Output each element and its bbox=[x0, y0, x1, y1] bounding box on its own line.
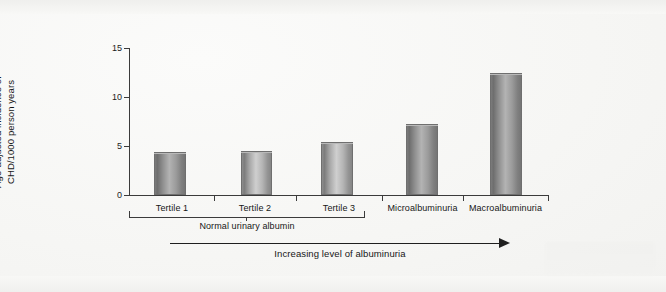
group-bracket-tick-right bbox=[364, 211, 365, 218]
bar-top-cap bbox=[321, 142, 353, 144]
bar-tertile-3[interactable] bbox=[321, 142, 353, 195]
x-tick-separator-1 bbox=[214, 196, 215, 201]
x-tick-separator-4 bbox=[463, 196, 464, 201]
category-label-tertile-3: Tertile 3 bbox=[296, 203, 382, 213]
category-label-microalbuminuria: Microalbuminuria bbox=[382, 203, 463, 213]
category-label-tertile-1: Tertile 1 bbox=[130, 203, 214, 213]
bar-top-cap bbox=[154, 152, 186, 154]
y-tick-0 bbox=[124, 195, 129, 196]
y-axis-line bbox=[129, 48, 130, 196]
bar-tertile-1[interactable] bbox=[154, 152, 186, 195]
category-label-tertile-2: Tertile 2 bbox=[214, 203, 296, 213]
y-tick-label-5: 5 bbox=[100, 141, 122, 151]
y-tick-label-15: 15 bbox=[100, 43, 122, 53]
group-bracket-label: Normal urinary albumin bbox=[129, 221, 365, 231]
x-axis-line bbox=[129, 195, 549, 196]
bar-chart: Age-adjusted incidence of CHD/1000 perso… bbox=[0, 0, 666, 292]
direction-arrow-label: Increasing level of albuminuria bbox=[170, 248, 510, 259]
x-tick-separator-5 bbox=[548, 196, 549, 201]
arrow-right-icon bbox=[499, 238, 510, 248]
direction-arrow-line bbox=[170, 243, 502, 244]
x-tick-separator-2 bbox=[296, 196, 297, 201]
category-label-macroalbuminuria: Macroalbuminuria bbox=[463, 203, 548, 213]
bar-top-cap bbox=[241, 151, 272, 153]
y-tick-label-0: 0 bbox=[100, 190, 122, 200]
bar-top-cap bbox=[490, 73, 522, 75]
group-bracket-tick-left bbox=[129, 211, 130, 218]
bar-tertile-2[interactable] bbox=[241, 151, 272, 195]
x-tick-separator-3 bbox=[382, 196, 383, 201]
y-tick-label-10: 10 bbox=[100, 92, 122, 102]
y-tick-10 bbox=[124, 97, 129, 98]
y-axis-title-line2: CHD/1000 person years bbox=[5, 52, 18, 212]
bar-macroalbuminuria[interactable] bbox=[490, 73, 522, 196]
group-bracket-line bbox=[129, 217, 365, 218]
bar-microalbuminuria[interactable] bbox=[406, 124, 438, 196]
y-tick-5 bbox=[124, 146, 129, 147]
bar-top-cap bbox=[406, 124, 438, 126]
y-axis-title: Age-adjusted incidence of CHD/1000 perso… bbox=[0, 52, 22, 212]
y-tick-15 bbox=[124, 48, 129, 49]
